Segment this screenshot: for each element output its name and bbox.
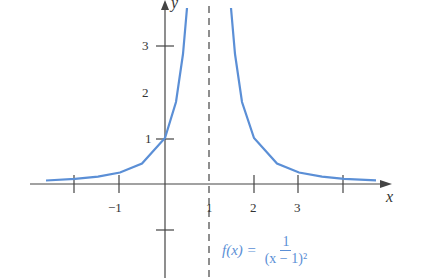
function-plot bbox=[0, 0, 427, 278]
formula-denominator: (x − 1)² bbox=[265, 251, 307, 267]
y-tick-label-1: 1 bbox=[145, 131, 152, 147]
formula-lhs: f(x) = bbox=[222, 242, 257, 259]
y-tick-label-3: 3 bbox=[142, 38, 149, 54]
formula-numerator: 1 bbox=[280, 234, 291, 251]
x-tick-label-3: 3 bbox=[294, 200, 301, 216]
curve-left-branch bbox=[46, 8, 187, 181]
x-tick-label-2: 2 bbox=[250, 200, 257, 216]
curve-right-branch bbox=[231, 8, 376, 180]
y-axis-arrow-icon bbox=[161, 0, 169, 10]
x-axis-label: x bbox=[386, 188, 393, 206]
y-tick-label-2: 2 bbox=[142, 85, 149, 101]
formula-fraction: 1 (x − 1)² bbox=[265, 234, 307, 267]
x-tick-label-neg1: −1 bbox=[108, 200, 122, 216]
x-axis-arrow-icon bbox=[380, 180, 392, 188]
function-formula: f(x) = 1 (x − 1)² bbox=[222, 234, 307, 267]
x-tick-label-1: 1 bbox=[206, 200, 213, 216]
y-axis-label: y bbox=[171, 0, 178, 12]
